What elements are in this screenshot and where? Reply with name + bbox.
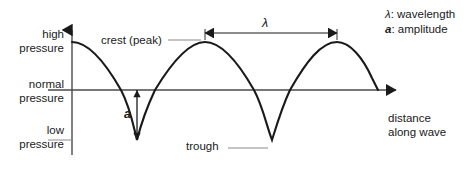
legend-item-wavelength: λ: wavelength — [385, 8, 455, 22]
axis-label-normal-pressure: normalpressure — [2, 78, 64, 105]
legend-text-wavelength: wavelength — [397, 8, 455, 20]
amplitude-symbol-label: a — [124, 108, 131, 122]
trough-label: trough — [186, 140, 219, 154]
axis-label-low-pressure-line1: low — [47, 124, 64, 136]
axis-label-low-pressure-line2: pressure — [19, 138, 64, 150]
wave-diagram: highpressure normalpressure lowpressure … — [0, 0, 467, 171]
crest-label: crest (peak) — [101, 34, 162, 48]
axis-label-distance: distancealong wave — [388, 111, 446, 139]
axis-label-low-pressure: lowpressure — [2, 124, 64, 151]
legend-text-amplitude: amplitude — [398, 23, 448, 35]
axis-label-distance-line2: along wave — [388, 126, 446, 138]
axis-label-normal-pressure-line2: pressure — [19, 92, 64, 104]
legend-item-amplitude: a: amplitude — [385, 23, 455, 37]
amplitude-arrowhead-up — [133, 90, 140, 97]
axis-label-high-pressure: highpressure — [2, 28, 64, 55]
axis-label-high-pressure-line1: high — [42, 28, 64, 40]
axis-label-distance-line1: distance — [388, 112, 431, 124]
wave-curve — [72, 42, 378, 140]
wavelength-symbol-label: λ — [262, 17, 268, 31]
axis-label-high-pressure-line2: pressure — [19, 42, 64, 54]
axis-label-normal-pressure-line1: normal — [29, 78, 64, 90]
amplitude-arrowhead-down — [133, 133, 140, 140]
legend: λ: wavelength a: amplitude — [385, 8, 455, 35]
